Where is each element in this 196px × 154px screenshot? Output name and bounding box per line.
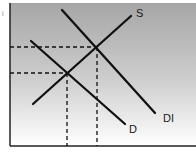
y-axis-mark: i: [2, 10, 4, 17]
supply-demand-chart: i S D DI: [0, 0, 196, 154]
plot-background: [10, 3, 196, 146]
demand-shifted-label: DI: [163, 113, 174, 124]
demand-label: D: [129, 124, 137, 135]
chart-canvas: [0, 0, 196, 154]
supply-label: S: [136, 8, 143, 19]
